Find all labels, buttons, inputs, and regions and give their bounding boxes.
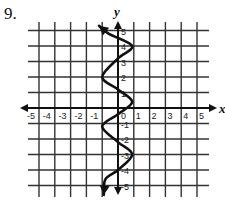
x-axis-label: x [218,101,225,116]
y-tick-label: 4 [121,42,126,52]
x-tick-label: 4 [183,111,188,121]
x-tick-label: -1 [90,111,98,121]
y-tick-label: -5 [121,182,129,192]
x-tick-label: 3 [167,111,172,121]
y-axis-label: y [112,4,120,19]
x-tick-label: 1 [136,111,141,121]
x-tick-label: 5 [199,111,204,121]
y-tick-label: -3 [121,151,129,161]
x-tick-label: -4 [43,111,51,121]
graph: xy -5-4-3-2-101234554321-1-2-3-4-5 [0,0,225,215]
y-tick-label: -1 [121,120,129,130]
y-tick-label: 5 [121,27,126,37]
x-tick-label: 2 [152,111,157,121]
x-axis-right-arrow-icon [209,104,217,112]
curve-bottom-arrow-icon [100,185,110,194]
x-tick-label: -3 [59,111,67,121]
x-tick-label: -5 [27,111,35,121]
y-tick-label: -2 [121,135,129,145]
x-tick-label: -2 [74,111,82,121]
y-tick-label: 2 [121,73,126,83]
y-tick-label: 3 [121,58,126,68]
